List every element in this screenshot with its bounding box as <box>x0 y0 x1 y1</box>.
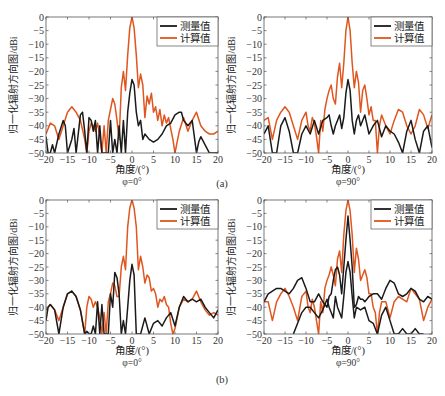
legend: 测量值计算值 <box>157 17 218 46</box>
y-tick-label: −30 <box>246 275 262 286</box>
y-tick-label: −15 <box>246 235 262 246</box>
y-tick-label: −35 <box>28 107 44 118</box>
x-tick-label: 5 <box>367 154 372 165</box>
legend-calculated-label: 计算值 <box>394 32 425 44</box>
legend-measured-label: 测量值 <box>394 20 425 32</box>
x-tick-label: 20 <box>213 335 223 346</box>
y-tick-label: −35 <box>246 107 262 118</box>
y-tick-label: −30 <box>28 93 44 104</box>
legend: 测量值计算值 <box>371 200 432 229</box>
x-axis-label: 角度/(°) <box>331 344 366 357</box>
x-axis-label: 角度/(°) <box>331 163 366 176</box>
x-tick-label: −15 <box>60 335 76 346</box>
legend-measured-label: 测量值 <box>180 20 211 32</box>
x-tick-label: 10 <box>385 154 395 165</box>
x-tick-label: 15 <box>192 335 202 346</box>
y-tick-label: −35 <box>28 288 44 299</box>
y-tick-label: −25 <box>246 262 262 273</box>
y-tick-label: 0 <box>257 195 262 206</box>
plot-panel-b-left: −20−15−10−5051015200−5−10−15−20−25−30−35… <box>7 195 223 369</box>
y-tick-label: −25 <box>28 80 44 91</box>
y-tick-label: −45 <box>28 315 44 326</box>
x-tick-label: 15 <box>192 154 202 165</box>
y-axis-label: 归一化辐射方向图/dBi <box>7 36 19 133</box>
y-tick-label: −30 <box>246 93 262 104</box>
x-axis-label: 角度/(°) <box>115 344 150 357</box>
y-tick-label: 0 <box>39 12 44 23</box>
y-tick-label: −45 <box>28 134 44 145</box>
x-tick-label: 5 <box>151 335 156 346</box>
legend-measured-label: 测量值 <box>180 203 211 215</box>
subfigure-label-a: (a) <box>216 178 228 190</box>
y-tick-label: −50 <box>246 148 262 159</box>
x-tick-label: 20 <box>427 335 437 346</box>
y-tick-label: −5 <box>251 25 262 36</box>
phi-caption: φ=0° <box>122 177 142 187</box>
y-tick-label: −40 <box>246 120 262 131</box>
y-tick-label: −5 <box>33 208 44 219</box>
y-tick-label: −35 <box>246 288 262 299</box>
radiation-pattern-figure: −20−15−10−5051015200−5−10−15−20−25−30−35… <box>0 0 445 396</box>
y-tick-label: −45 <box>246 315 262 326</box>
x-tick-label: 10 <box>170 154 180 165</box>
measured-series-line <box>46 80 218 153</box>
y-tick-label: −15 <box>28 52 44 63</box>
y-tick-label: −20 <box>28 248 44 259</box>
legend: 测量值计算值 <box>371 17 432 46</box>
legend-calculated-label: 计算值 <box>180 215 211 227</box>
y-tick-label: 0 <box>39 195 44 206</box>
y-tick-label: −10 <box>246 39 262 50</box>
y-tick-label: −15 <box>28 235 44 246</box>
subfigure-label-b: (b) <box>216 374 229 386</box>
x-tick-label: 20 <box>427 154 437 165</box>
y-axis-label: 归一化辐射方向图/dBi <box>225 36 237 133</box>
y-tick-label: −30 <box>28 275 44 286</box>
y-tick-label: −15 <box>246 52 262 63</box>
phi-caption: φ=90° <box>336 177 360 187</box>
y-tick-label: −50 <box>28 148 44 159</box>
x-tick-label: −15 <box>60 154 76 165</box>
measured-series-line <box>46 264 218 334</box>
phi-caption: φ=90° <box>336 358 360 368</box>
y-tick-label: −5 <box>251 208 262 219</box>
y-tick-label: −50 <box>28 329 44 340</box>
x-tick-label: −15 <box>277 154 293 165</box>
y-tick-label: −40 <box>28 120 44 131</box>
y-tick-label: 0 <box>257 12 262 23</box>
y-tick-label: −10 <box>28 39 44 50</box>
figure-canvas: −20−15−10−5051015200−5−10−15−20−25−30−35… <box>0 0 445 396</box>
x-tick-label: −10 <box>298 154 314 165</box>
x-tick-label: −10 <box>81 154 97 165</box>
x-tick-label: 10 <box>170 335 180 346</box>
y-tick-label: −50 <box>246 329 262 340</box>
y-tick-label: −45 <box>246 134 262 145</box>
y-axis-label: 归一化辐射方向图/dBi <box>225 218 237 315</box>
plot-panel-a-right: −20−15−10−5051015200−5−10−15−20−25−30−35… <box>225 12 437 188</box>
x-tick-label: 5 <box>367 335 372 346</box>
x-tick-label: 15 <box>406 154 416 165</box>
y-tick-label: −5 <box>33 25 44 36</box>
y-tick-label: −25 <box>28 262 44 273</box>
plot-panel-a-left: −20−15−10−5051015200−5−10−15−20−25−30−35… <box>7 12 223 188</box>
legend-calculated-label: 计算值 <box>394 215 425 227</box>
legend-calculated-label: 计算值 <box>180 32 211 44</box>
plot-panel-b-right: −20−15−10−5051015200−5−10−15−20−25−30−35… <box>225 195 437 369</box>
x-tick-label: 15 <box>406 335 416 346</box>
y-tick-label: −40 <box>246 302 262 313</box>
y-tick-label: −40 <box>28 302 44 313</box>
x-tick-label: −15 <box>277 335 293 346</box>
legend-measured-label: 测量值 <box>394 203 425 215</box>
y-tick-label: −10 <box>28 221 44 232</box>
x-tick-label: −10 <box>298 335 314 346</box>
legend: 测量值计算值 <box>157 200 218 229</box>
x-tick-label: 10 <box>385 335 395 346</box>
y-tick-label: −20 <box>246 248 262 259</box>
y-tick-label: −10 <box>246 221 262 232</box>
x-tick-label: −10 <box>81 335 97 346</box>
y-axis-label: 归一化辐射方向图/dBi <box>7 218 19 315</box>
y-tick-label: −25 <box>246 80 262 91</box>
phi-caption: φ=0° <box>122 358 142 368</box>
y-tick-label: −20 <box>246 66 262 77</box>
x-tick-label: 5 <box>151 154 156 165</box>
y-tick-label: −20 <box>28 66 44 77</box>
